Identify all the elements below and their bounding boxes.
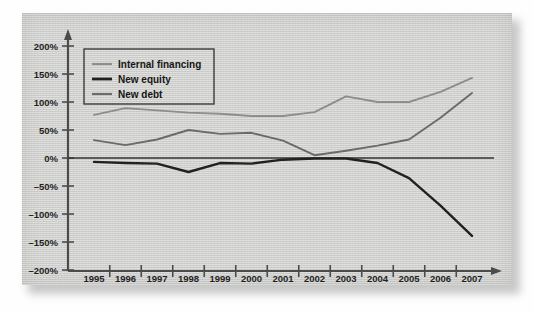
x-tick-label: 2007 bbox=[461, 273, 482, 284]
y-tick-label: –150% bbox=[28, 237, 58, 248]
y-tick-label: 200% bbox=[34, 41, 59, 52]
series-line-new-equity bbox=[94, 159, 472, 236]
x-tick-label: 1995 bbox=[83, 273, 105, 284]
x-tick-label: 1999 bbox=[209, 273, 230, 284]
x-tick-label: 1996 bbox=[115, 273, 136, 284]
x-tick-label: 1998 bbox=[178, 273, 199, 284]
chart-panel: 200% 150% 100% 50% 0% –50% –100% –150% –… bbox=[22, 13, 512, 285]
x-tick-label: 2002 bbox=[304, 273, 325, 284]
y-tick-labels: 200% 150% 100% 50% 0% –50% –100% –150% –… bbox=[28, 41, 58, 276]
x-tick-label: 1997 bbox=[146, 273, 167, 284]
series-group bbox=[94, 78, 472, 236]
legend-label-new-equity: New equity bbox=[118, 74, 171, 85]
x-tick-label: 2000 bbox=[241, 273, 262, 284]
line-chart-plot: 200% 150% 100% 50% 0% –50% –100% –150% –… bbox=[22, 13, 512, 285]
y-tick-label: –50% bbox=[34, 181, 59, 192]
x-tick-label: 2006 bbox=[430, 273, 451, 284]
x-axis-arrow-icon bbox=[491, 267, 502, 275]
legend-label-new-debt: New debt bbox=[118, 89, 163, 100]
y-axis-arrow-icon bbox=[64, 29, 72, 40]
chart-legend: Internal financing New equity New debt bbox=[84, 49, 214, 104]
x-tick-label: 2004 bbox=[367, 273, 389, 284]
y-tick-label: 150% bbox=[34, 69, 59, 80]
y-tick-label: –100% bbox=[28, 209, 58, 220]
chart-figure: 200% 150% 100% 50% 0% –50% –100% –150% –… bbox=[0, 0, 534, 313]
y-tick-label: 0% bbox=[44, 153, 58, 164]
x-tick-label: 2003 bbox=[335, 273, 356, 284]
x-tick-labels: 1995199619971998199920002001200220032004… bbox=[83, 273, 482, 284]
x-tick-label: 2001 bbox=[272, 273, 294, 284]
y-tick-label: –200% bbox=[28, 265, 58, 276]
y-tick-label: 50% bbox=[39, 125, 59, 136]
legend-label-internal-financing: Internal financing bbox=[118, 59, 201, 70]
y-tick-label: 100% bbox=[34, 97, 59, 108]
series-line-new-debt bbox=[94, 93, 472, 155]
x-tick-label: 2005 bbox=[398, 273, 420, 284]
